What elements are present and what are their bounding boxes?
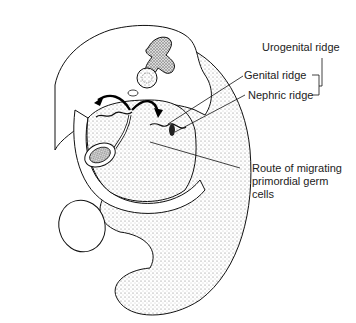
label-genital-ridge: Genital ridge	[244, 69, 306, 82]
label-urogenital-ridge: Urogenital ridge	[262, 41, 340, 54]
aorta	[137, 68, 157, 88]
label-nephric-ridge: Nephric ridge	[248, 89, 313, 102]
label-germ-cell-route: Route of migrating primordial germ cells	[252, 162, 352, 201]
